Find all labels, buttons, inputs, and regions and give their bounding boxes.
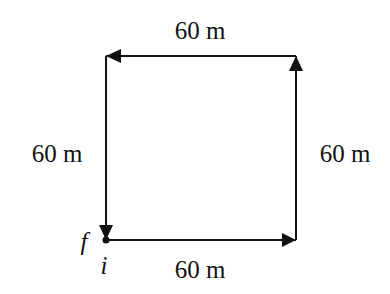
- displacement-diagram: 60 m 60 m 60 m 60 m f i: [0, 0, 390, 294]
- segment-right: [289, 56, 303, 240]
- arrowhead-up-icon: [289, 56, 303, 71]
- arrowhead-left-icon: [106, 49, 121, 63]
- label-right-distance: 60 m: [320, 140, 371, 167]
- segment-top: [106, 49, 296, 63]
- label-initial-point: i: [101, 252, 108, 279]
- segment-left: [99, 56, 113, 240]
- arrowhead-right-icon: [282, 233, 296, 247]
- label-bottom-distance: 60 m: [175, 256, 226, 283]
- segment-bottom: [106, 233, 296, 247]
- label-left-distance: 60 m: [32, 140, 83, 167]
- label-final-point: f: [81, 228, 91, 255]
- start-point-dot: [103, 237, 110, 244]
- label-top-distance: 60 m: [175, 17, 226, 44]
